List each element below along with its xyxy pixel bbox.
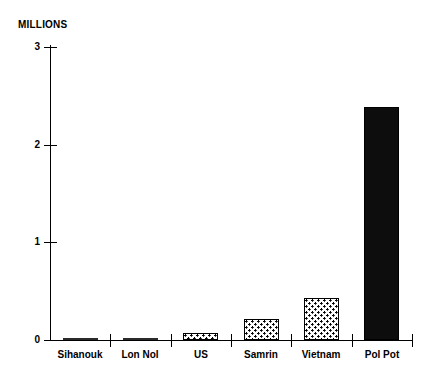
x-axis-category-label: Lon Nol <box>110 349 170 361</box>
x-axis-category-label: Samrin <box>231 349 291 361</box>
x-axis-category-label: Pol Pot <box>352 349 412 361</box>
y-axis-tick <box>44 340 57 341</box>
bar <box>304 298 339 340</box>
x-axis-tick <box>412 334 413 347</box>
x-axis-tick <box>352 334 353 347</box>
y-axis-line <box>50 45 51 341</box>
bar <box>183 333 218 340</box>
y-axis-tick-label: 0 <box>18 335 40 345</box>
y-axis-tick <box>44 145 57 146</box>
x-axis-tick <box>231 334 232 347</box>
y-axis-tick-label: 3 <box>18 42 40 52</box>
y-axis-tick <box>44 242 57 243</box>
bar <box>244 319 279 340</box>
x-axis-category-label: Sihanouk <box>50 349 110 361</box>
x-axis-category-label: US <box>171 349 231 361</box>
x-axis-category-label: Vietnam <box>291 349 351 361</box>
x-axis-tick <box>291 334 292 347</box>
x-axis-tick <box>171 334 172 347</box>
x-axis-tick <box>110 334 111 347</box>
y-axis-tick <box>44 47 57 48</box>
y-axis-tick-label: 2 <box>18 140 40 150</box>
bar <box>63 338 98 340</box>
bar <box>123 338 158 340</box>
bar <box>364 107 399 340</box>
y-axis-tick-label: 1 <box>18 237 40 247</box>
bar-chart: MILLIONS 0123 SihanoukLon NolUSSamrinVie… <box>0 0 421 384</box>
y-axis-unit-label: MILLIONS <box>18 19 67 30</box>
